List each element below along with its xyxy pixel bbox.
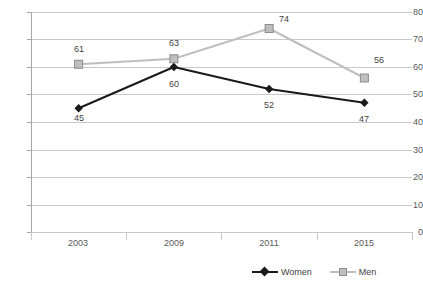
legend-label-women: Women bbox=[281, 267, 312, 277]
legend-label-men: Men bbox=[359, 267, 377, 277]
data-label-women-2015: 47 bbox=[349, 115, 379, 124]
data-label-men-2011: 74 bbox=[269, 15, 299, 24]
marker-men-2015 bbox=[360, 74, 368, 82]
data-label-men-2003: 61 bbox=[64, 45, 94, 54]
data-label-women-2011: 52 bbox=[254, 101, 284, 110]
marker-women-2015 bbox=[360, 99, 368, 107]
series-layer bbox=[0, 0, 423, 287]
marker-women-2011 bbox=[265, 85, 273, 93]
line-chart: 80 70 60 50 40 30 20 10 0 2003 2009 2011… bbox=[0, 0, 423, 287]
legend-item-men[interactable]: Men bbox=[330, 267, 377, 277]
data-label-men-2009: 63 bbox=[159, 39, 189, 48]
data-label-women-2009: 60 bbox=[159, 80, 189, 89]
series-line-women bbox=[79, 67, 365, 108]
legend-item-women[interactable]: Women bbox=[252, 267, 312, 277]
data-label-women-2003: 45 bbox=[64, 114, 94, 123]
legend-marker-men-square-icon bbox=[330, 267, 356, 277]
series-markers-men bbox=[75, 25, 369, 83]
legend-marker-women-diamond-icon bbox=[252, 267, 278, 277]
legend: Women Men bbox=[252, 264, 412, 280]
data-label-men-2015: 56 bbox=[364, 56, 394, 65]
marker-men-2011 bbox=[265, 25, 273, 33]
marker-women-2009 bbox=[170, 63, 178, 71]
series-markers-women bbox=[74, 63, 368, 113]
marker-women-2003 bbox=[74, 104, 82, 112]
marker-men-2003 bbox=[75, 60, 83, 68]
series-line-men bbox=[79, 29, 365, 79]
marker-men-2009 bbox=[170, 55, 178, 63]
